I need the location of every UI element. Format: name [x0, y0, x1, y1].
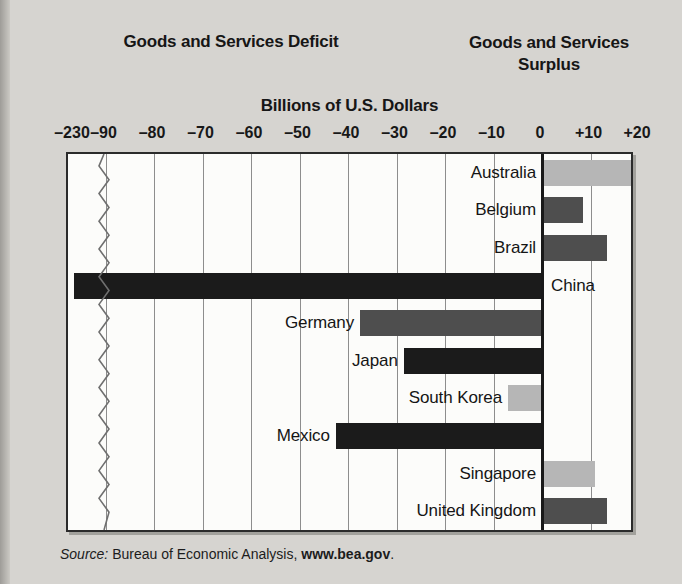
source-body: Bureau of Economic Analysis,: [108, 546, 301, 562]
deficit-heading: Goods and Services Deficit: [66, 32, 396, 52]
source-suffix: .: [390, 546, 394, 562]
bar-label-china: China: [551, 276, 595, 296]
bar-mexico[interactable]: [336, 423, 542, 449]
x-tick-pos20: +20: [623, 124, 650, 142]
x-tick-neg30: –30: [381, 124, 408, 142]
bar-label-singapore: Singapore: [459, 464, 536, 484]
bar-rows: AustraliaBelgiumBrazilChinaGermanyJapanS…: [68, 154, 631, 530]
bar-label-brazil: Brazil: [494, 238, 536, 258]
bar-germany[interactable]: [360, 310, 542, 336]
bar-australia[interactable]: [542, 160, 633, 186]
bar-row: Mexico: [68, 417, 631, 455]
bar-singapore[interactable]: [542, 461, 595, 487]
chart-axis-title: Billions of U.S. Dollars: [66, 96, 633, 116]
bar-label-japan: Japan: [352, 351, 398, 371]
bar-label-mexico: Mexico: [277, 426, 330, 446]
x-tick-zero: 0: [536, 124, 545, 142]
page-edge-shadow: [0, 0, 10, 584]
x-tick-neg70: –70: [187, 124, 214, 142]
bar-row: Australia: [68, 154, 631, 192]
x-tick-neg230: –230: [54, 124, 90, 142]
surplus-heading: Goods and Services Surplus: [432, 32, 666, 76]
bar-japan[interactable]: [404, 348, 542, 374]
bar-row: Germany: [68, 304, 631, 342]
bar-label-belgium: Belgium: [475, 200, 536, 220]
surplus-heading-line-1: Goods and Services: [432, 32, 666, 54]
bar-row: Brazil: [68, 229, 631, 267]
bar-label-united-kingdom: United Kingdom: [416, 501, 536, 521]
bar-row: Belgium: [68, 192, 631, 230]
bar-label-south-korea: South Korea: [409, 388, 502, 408]
x-tick-pos10: +10: [575, 124, 602, 142]
bar-belgium[interactable]: [542, 197, 583, 223]
bar-china[interactable]: [74, 273, 542, 299]
x-tick-neg50: –50: [284, 124, 311, 142]
bar-row: China: [68, 267, 631, 305]
x-tick-neg40: –40: [333, 124, 360, 142]
x-axis-tick-labels: –230–90–80–70–60–50–40–30–20–100+10+20: [0, 124, 682, 148]
bar-label-australia: Australia: [471, 163, 536, 183]
bar-row: United Kingdom: [68, 492, 631, 530]
bar-row: Japan: [68, 342, 631, 380]
x-tick-neg60: –60: [236, 124, 263, 142]
bar-brazil[interactable]: [542, 235, 607, 261]
source-note: Source: Bureau of Economic Analysis, www…: [60, 546, 394, 562]
bar-row: South Korea: [68, 380, 631, 418]
bar-south-korea[interactable]: [508, 385, 542, 411]
chart-plot-area: AustraliaBelgiumBrazilChinaGermanyJapanS…: [66, 152, 633, 532]
bar-row: Singapore: [68, 455, 631, 493]
axis-break-icon: [97, 154, 111, 530]
x-tick-neg90: –90: [90, 124, 117, 142]
zero-axis-line: [541, 154, 544, 530]
source-website: www.bea.gov: [301, 546, 390, 562]
bar-united-kingdom[interactable]: [542, 498, 607, 524]
bar-label-germany: Germany: [285, 313, 354, 333]
source-label: Source:: [60, 546, 108, 562]
x-tick-neg10: –10: [478, 124, 505, 142]
surplus-heading-line-2: Surplus: [432, 54, 666, 76]
x-tick-neg80: –80: [139, 124, 166, 142]
x-tick-neg20: –20: [430, 124, 457, 142]
